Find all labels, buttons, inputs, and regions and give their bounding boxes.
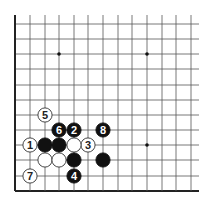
white-stone-7: 7 [23, 169, 37, 183]
star-point-icon [145, 143, 149, 147]
white-stone [38, 153, 52, 167]
black-stone-disc [96, 153, 110, 167]
black-stone-8: 8 [96, 123, 110, 137]
move-number-label: 8 [100, 124, 106, 136]
stones: 12345678 [23, 108, 110, 183]
white-stone [52, 153, 66, 167]
star-point-icon [145, 52, 149, 56]
move-number-label: 2 [71, 124, 77, 136]
black-stone [96, 153, 110, 167]
black-stone [38, 138, 52, 152]
black-stone-4: 4 [67, 169, 81, 183]
white-stone-disc [52, 153, 66, 167]
star-point-icon [57, 52, 61, 56]
white-stone-3: 3 [81, 138, 95, 152]
move-number-label: 4 [71, 170, 78, 182]
white-stone [67, 138, 81, 152]
move-number-label: 5 [42, 109, 48, 121]
white-stone-5: 5 [38, 108, 52, 122]
move-number-label: 1 [27, 139, 33, 151]
white-stone-1: 1 [23, 138, 37, 152]
go-board: 12345678 [0, 0, 211, 204]
move-number-label: 7 [27, 170, 33, 182]
black-stone-disc [52, 138, 66, 152]
black-stone-disc [38, 138, 52, 152]
black-stone-6: 6 [52, 123, 66, 137]
black-stone-disc [67, 153, 81, 167]
white-stone-disc [67, 138, 81, 152]
black-stone [67, 153, 81, 167]
move-number-label: 6 [56, 124, 62, 136]
black-stone-2: 2 [67, 123, 81, 137]
move-number-label: 3 [85, 139, 91, 151]
black-stone [52, 138, 66, 152]
white-stone-disc [38, 153, 52, 167]
